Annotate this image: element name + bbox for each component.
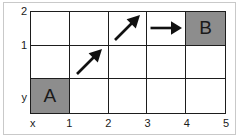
arrow-diagonal-up-right-icon (70, 46, 108, 79)
grid-cell-r2-c4[interactable] (186, 79, 225, 113)
figure-frame: 2 1 y x 1 2 3 4 5 BA (3, 2, 236, 135)
arrow-diagonal-up-right-icon (109, 12, 147, 45)
cell-label-b: B (186, 12, 225, 45)
x-axis-tick-2: 2 (105, 118, 111, 129)
grid: BA (30, 11, 226, 114)
y-axis-tick-2: 2 (21, 6, 27, 17)
grid-cell-r0-c4[interactable]: B (186, 12, 225, 46)
grid-cell-r1-c4[interactable] (186, 46, 225, 80)
grid-cell-r0-c0[interactable] (31, 12, 70, 46)
grid-cell-r0-c2[interactable] (109, 12, 148, 46)
cell-label-a: A (31, 79, 69, 113)
grid-cell-r1-c0[interactable] (31, 46, 70, 80)
grid-cell-r2-c3[interactable] (147, 79, 186, 113)
grid-cell-r1-c2[interactable] (109, 46, 148, 80)
grid-cell-r2-c1[interactable] (70, 79, 109, 113)
arrow-right-icon (147, 12, 185, 45)
grid-cell-r2-c0[interactable]: A (31, 79, 70, 113)
grid-cell-r0-c3[interactable] (147, 12, 186, 46)
x-axis-name: x (30, 118, 36, 129)
grid-cell-r1-c1[interactable] (70, 46, 109, 80)
grid-cell-r1-c3[interactable] (147, 46, 186, 80)
y-axis-name: y (22, 92, 28, 103)
y-axis-tick-1: 1 (21, 40, 27, 51)
x-axis-tick-4: 4 (184, 118, 190, 129)
grid-cell-r2-c2[interactable] (109, 79, 148, 113)
x-axis-tick-1: 1 (66, 118, 72, 129)
grid-container: 2 1 y x 1 2 3 4 5 BA (30, 11, 226, 114)
x-axis-tick-3: 3 (145, 118, 151, 129)
x-axis-tick-5: 5 (223, 118, 229, 129)
grid-cell-r0-c1[interactable] (70, 12, 109, 46)
